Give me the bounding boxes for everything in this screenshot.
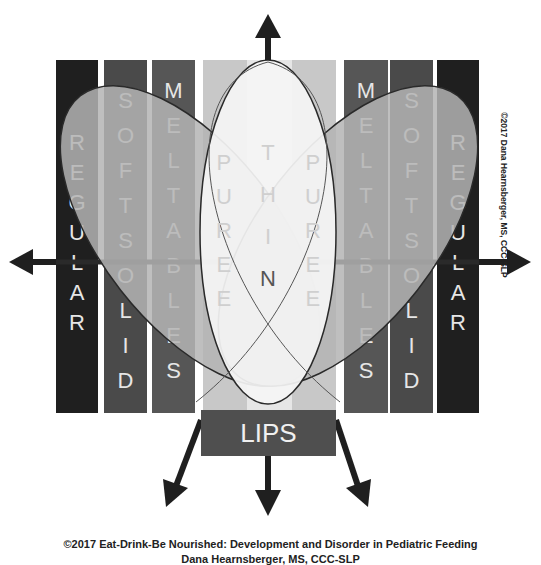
letter: H <box>260 184 276 206</box>
letter: N <box>260 268 276 290</box>
side-copyright-text: ©2017 Dana Hearnsberger, MS, CCC-SLP <box>499 112 509 277</box>
letters-thin: T H I N <box>260 142 276 290</box>
letter: R <box>216 220 232 242</box>
footer-title: ©2017 Eat-Drink-Be Nourished: Developmen… <box>0 538 541 550</box>
footer-author: Dana Hearnsberger, MS, CCC-SLP <box>0 553 541 565</box>
letter: E <box>306 254 321 276</box>
lips-label-box: LIPS <box>201 410 336 456</box>
letters-puree-left: P U R E E <box>216 152 232 310</box>
arrow-down-left-icon <box>163 420 201 507</box>
letter: I <box>265 226 271 248</box>
letter: P <box>306 152 321 174</box>
arrow-up-icon <box>255 14 281 60</box>
arrow-down-icon <box>255 456 281 516</box>
arrow-down-right-icon <box>336 420 371 507</box>
letter: E <box>306 288 321 310</box>
side-copyright: ©2017 Dana Hearnsberger, MS, CCC-SLP <box>497 70 511 320</box>
letter: U <box>305 186 321 208</box>
arrow-left-icon <box>9 249 56 275</box>
letter: E <box>217 288 232 310</box>
letter: T <box>261 142 274 164</box>
letters-puree-right: P U R E E <box>305 152 321 310</box>
letter: U <box>216 186 232 208</box>
letter: E <box>217 254 232 276</box>
letter: R <box>305 220 321 242</box>
letter: P <box>217 152 232 174</box>
